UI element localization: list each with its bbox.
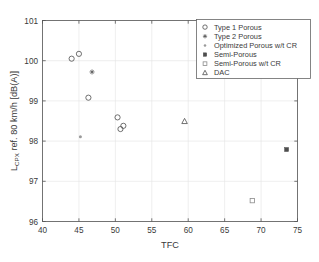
marker-dot [204, 44, 207, 47]
series-group [285, 148, 289, 152]
x-tick-label: 70 [257, 226, 267, 235]
legend-label: Optimized Porous w/t CR [214, 41, 297, 50]
y-tick-label: 101 [24, 17, 38, 26]
series-group [90, 69, 95, 74]
legend-label: DAC [214, 68, 230, 77]
x-tick-label: 50 [111, 226, 121, 235]
legend: Type 1 PorousType 2 PorousOptimized Poro… [197, 20, 311, 79]
marker-plus [90, 69, 95, 74]
y-tick-label: 97 [29, 177, 39, 186]
marker-square-filled [285, 148, 289, 152]
y-tick-label: 100 [24, 57, 38, 66]
scatter-plot-figure: 404550556065707596979899100101 Type 1 Po… [0, 0, 319, 262]
x-tick-label: 40 [38, 226, 48, 235]
y-tick-label: 96 [29, 218, 39, 227]
x-axis-title: TFC [161, 240, 179, 250]
x-tick-label: 55 [147, 226, 157, 235]
marker-square-filled [203, 53, 206, 56]
legend-label: Type 2 Porous [214, 32, 262, 41]
x-tick-label: 65 [220, 226, 230, 235]
x-tick-label: 60 [184, 226, 194, 235]
marker-plus [203, 34, 207, 38]
marker-dot [79, 135, 82, 138]
y-tick-label: 99 [29, 97, 39, 106]
legend-label: Type 1 Porous [214, 23, 262, 32]
x-tick-label: 75 [293, 226, 303, 235]
series-group [79, 135, 82, 138]
legend-label: Semi-Porous [214, 50, 257, 59]
plot-canvas: 404550556065707596979899100101 Type 1 Po… [0, 0, 319, 262]
x-tick-label: 45 [74, 226, 84, 235]
y-tick-label: 98 [29, 137, 39, 146]
legend-label: Semi-Porous w/t CR [214, 59, 281, 68]
